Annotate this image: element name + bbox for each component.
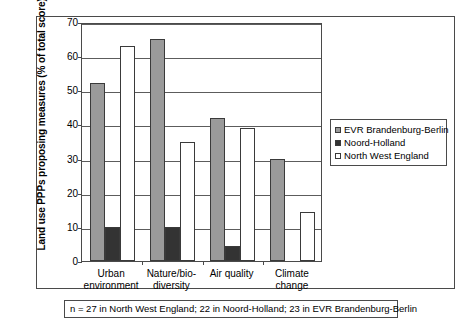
gridline: [82, 24, 321, 25]
y-axis-tick-mark: [78, 228, 82, 229]
legend-item: North West England: [335, 149, 443, 162]
legend-item: Noord-Holland: [335, 136, 443, 149]
y-axis-tick-mark: [78, 160, 82, 161]
x-axis-category-label: Urban environment: [81, 268, 141, 291]
y-axis-tick-label: 50: [44, 86, 78, 96]
legend-swatch-icon: [335, 127, 341, 133]
bar: [150, 39, 165, 261]
chart-figure: Land use PPPs proposing measures (% of t…: [0, 0, 467, 333]
y-axis-tick-label: 30: [44, 155, 78, 165]
plot-area: [81, 23, 322, 262]
legend-item-label: North West England: [344, 150, 429, 161]
y-axis-tick-label: 70: [44, 18, 78, 28]
bar: [90, 83, 105, 261]
x-axis-tick-mark: [203, 261, 204, 265]
x-axis-tick-mark: [263, 261, 264, 265]
x-axis-category-label: Nature/bio- diversity: [141, 268, 201, 291]
y-axis-tick-label: 10: [44, 223, 78, 233]
y-axis-tick-mark: [78, 91, 82, 92]
y-axis-tick-mark: [78, 125, 82, 126]
y-axis-tick-mark: [78, 262, 82, 263]
legend-swatch-icon: [335, 153, 341, 159]
bar: [105, 227, 120, 261]
gridline: [82, 58, 321, 59]
x-axis-tick-mark: [142, 261, 143, 265]
bar: [180, 142, 195, 262]
y-axis-tick-label: 0: [44, 257, 78, 267]
legend-item-label: Noord-Holland: [344, 137, 405, 148]
gridline: [82, 126, 321, 127]
y-axis-tick-mark: [78, 194, 82, 195]
y-axis-tick-mark: [78, 23, 82, 24]
y-axis-tick-label: 40: [44, 120, 78, 130]
gridline: [82, 92, 321, 93]
legend-swatch-icon: [335, 140, 341, 146]
x-axis-category-label: Air quality: [202, 268, 262, 280]
y-axis-tick-mark: [78, 57, 82, 58]
bar: [240, 128, 255, 261]
chart-legend: EVR Brandenburg-Berlin Noord-Holland Nor…: [330, 119, 447, 166]
x-axis-category-label: Climate change: [262, 268, 322, 291]
bar: [120, 46, 135, 261]
legend-item-label: EVR Brandenburg-Berlin: [344, 124, 449, 135]
bar: [270, 159, 285, 261]
bar: [300, 212, 315, 262]
legend-item: EVR Brandenburg-Berlin: [335, 123, 443, 136]
y-axis-tick-label: 20: [44, 189, 78, 199]
chart-footnote: n = 27 in North West England; 22 in Noor…: [64, 300, 398, 318]
bar: [210, 118, 225, 261]
y-axis-tick-label: 60: [44, 52, 78, 62]
bar: [165, 227, 180, 261]
bar: [225, 246, 240, 261]
